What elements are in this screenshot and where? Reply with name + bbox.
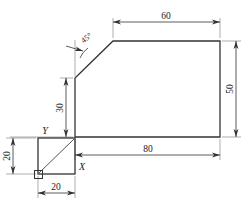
dim-label-60: 60 [161,11,171,21]
dimension-lines [13,22,236,193]
dim-label-80: 80 [143,144,153,154]
angle-callout [66,46,88,58]
dim-label-30: 30 [55,103,65,113]
dim-label-20-vertical: 20 [2,151,12,161]
axis-label-x: X [78,161,86,172]
dim-label-50: 50 [225,84,235,94]
technical-drawing: 60 50 30 80 20 20 45° Y X [0,0,251,208]
angle-arc [80,48,88,58]
main-outline-shape [75,41,220,137]
dim-label-angle: 45° [79,31,93,45]
axis-label-y: Y [42,125,49,136]
dim-label-20-horizontal: 20 [51,182,61,192]
origin-square-diagonal [38,138,75,174]
angle-leader-line [66,46,83,51]
drawing-canvas: 60 50 30 80 20 20 45° Y X [0,0,251,208]
